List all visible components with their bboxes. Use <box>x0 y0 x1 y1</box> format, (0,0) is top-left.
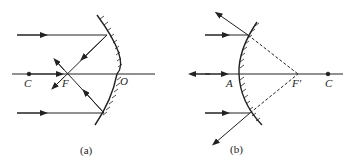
figure-a <box>12 15 155 125</box>
mirror-hatching <box>240 23 260 121</box>
virtual-ray-top <box>248 35 298 74</box>
label-f-a: F <box>61 77 69 89</box>
label-f-b: F' <box>291 77 302 89</box>
caption-b: (b) <box>230 143 243 156</box>
label-c-b: C <box>325 77 333 89</box>
virtual-ray-bottom <box>250 74 298 113</box>
caption-a: (a) <box>80 144 93 157</box>
label-o-a: O <box>120 75 128 87</box>
center-point-b <box>326 72 330 76</box>
reflected-ray-bottom <box>215 113 250 143</box>
label-c-a: C <box>24 77 32 89</box>
reflected-ray-top <box>218 14 248 35</box>
mirror-hatching <box>100 16 122 115</box>
center-point-a <box>27 72 31 76</box>
mirror-diagrams: C F O (a) <box>0 0 355 168</box>
label-a-b: A <box>225 77 233 89</box>
figure-b <box>190 14 343 143</box>
